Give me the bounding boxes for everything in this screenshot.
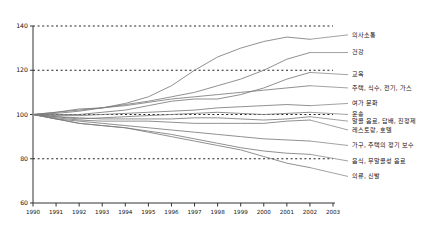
legend-leader-4 bbox=[310, 103, 348, 105]
x-tick-label-1990: 1990 bbox=[26, 209, 41, 215]
legend-leader-6 bbox=[310, 117, 348, 121]
legend-leader-10 bbox=[310, 168, 348, 177]
x-tick-label-1993: 1993 bbox=[95, 209, 110, 215]
legend-leader-8 bbox=[310, 141, 348, 145]
y-tick-label-100: 100 bbox=[16, 111, 28, 118]
cpi-index-line-chart: 1401201008060199019911992199319941995199… bbox=[0, 0, 422, 228]
x-tick-label-1991: 1991 bbox=[49, 209, 64, 215]
legend-label-8: 가구, 주택의 정기 보수 bbox=[352, 141, 414, 149]
y-tick-label-140: 140 bbox=[16, 22, 28, 29]
y-tick-label-60: 60 bbox=[20, 199, 28, 206]
x-tick-label-1992: 1992 bbox=[72, 209, 86, 215]
legend-leader-3 bbox=[310, 86, 348, 88]
x-tick-label-1995: 1995 bbox=[141, 209, 156, 215]
y-tick-label-120: 120 bbox=[16, 66, 28, 73]
legend-label-10: 의류, 신발 bbox=[352, 172, 380, 180]
legend-leader-9 bbox=[310, 154, 348, 161]
y-tick-label-80: 80 bbox=[20, 155, 28, 162]
legend-label-2: 교육 bbox=[352, 70, 364, 78]
x-tick-label-2001: 2001 bbox=[280, 209, 295, 215]
legend-leader-7 bbox=[310, 120, 348, 130]
chart-plot-svg: 1401201008060199019911992199319941995199… bbox=[0, 0, 422, 228]
series-line-0 bbox=[33, 37, 310, 114]
x-tick-label-1996: 1996 bbox=[164, 209, 179, 215]
legend-leader-0 bbox=[310, 35, 348, 39]
legend-label-4: 여가 문화 bbox=[352, 99, 378, 107]
x-tick-label-1997: 1997 bbox=[187, 209, 202, 215]
x-tick-label-2000: 2000 bbox=[257, 209, 272, 215]
x-tick-label-2002: 2002 bbox=[303, 209, 317, 215]
legend-label-3: 주택, 식수, 전기, 가스 bbox=[352, 84, 412, 92]
legend-label-7: 레스토랑, 호텔 bbox=[352, 126, 392, 134]
legend-label-9: 음식, 무알콜성 음료 bbox=[352, 157, 406, 165]
legend-leader-2 bbox=[310, 72, 348, 74]
legend-label-6: 알콜 음료, 담배, 진정제 bbox=[352, 117, 416, 125]
x-tick-label-1999: 1999 bbox=[234, 209, 249, 215]
x-tick-label-1994: 1994 bbox=[118, 209, 133, 215]
legend-label-0: 의사소통 bbox=[352, 31, 376, 39]
series-line-2 bbox=[33, 72, 310, 114]
legend-label-1: 건강 bbox=[352, 48, 364, 55]
x-tick-label-2003: 2003 bbox=[326, 209, 341, 215]
x-tick-label-1998: 1998 bbox=[210, 209, 225, 215]
